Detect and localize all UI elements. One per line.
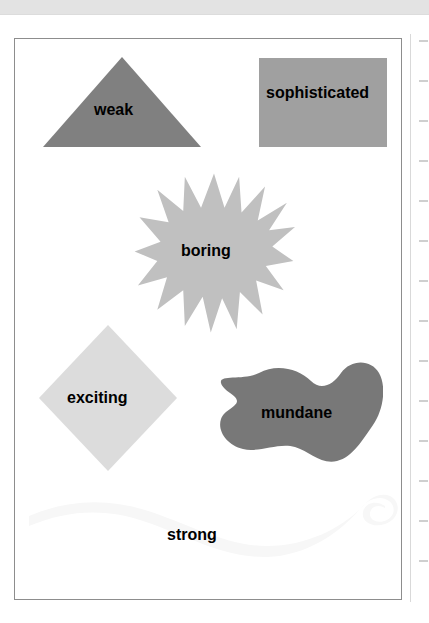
- drawing-canvas[interactable]: strong weak sophisticated boring excitin…: [14, 38, 402, 600]
- shape-label-weak: weak: [94, 101, 133, 119]
- ruler-tick: [419, 440, 428, 442]
- shape-strong[interactable]: [27, 474, 401, 571]
- shape-label-mundane: mundane: [261, 404, 332, 422]
- ruler-line: [410, 34, 411, 602]
- shape-sophisticated[interactable]: [259, 58, 387, 147]
- ruler-tick: [419, 80, 428, 82]
- ruler-tick: [419, 560, 428, 562]
- wave-ribbon-shape: [27, 474, 401, 571]
- ruler-tick: [419, 160, 428, 162]
- shape-label-strong: strong: [167, 526, 217, 544]
- ruler-tick: [419, 360, 428, 362]
- shape-label-sophisticated: sophisticated: [266, 84, 369, 102]
- ruler-tick: [419, 480, 428, 482]
- ruler-tick: [419, 200, 428, 202]
- ruler-tick: [419, 280, 428, 282]
- shape-label-exciting: exciting: [67, 389, 127, 407]
- ruler-tick: [419, 520, 428, 522]
- toolbar-strip: [0, 0, 429, 15]
- shape-label-boring: boring: [181, 242, 231, 260]
- ruler-tick: [419, 40, 428, 42]
- vertical-ruler: [410, 34, 429, 602]
- ruler-tick: [419, 400, 428, 402]
- ruler-tick: [419, 120, 428, 122]
- ruler-tick: [419, 320, 428, 322]
- ruler-tick: [419, 240, 428, 242]
